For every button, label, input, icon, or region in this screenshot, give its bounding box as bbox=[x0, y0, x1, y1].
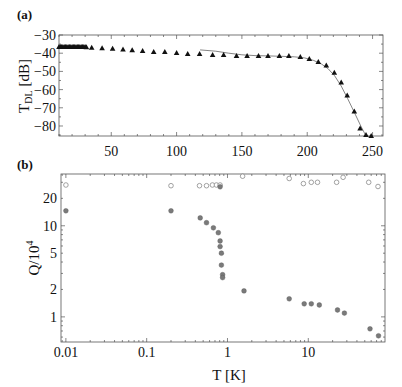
triangle-marker bbox=[110, 46, 116, 51]
fit-line bbox=[200, 50, 366, 136]
triangle-marker bbox=[140, 48, 146, 53]
open-circle-marker bbox=[204, 183, 209, 188]
filled-circle-marker bbox=[309, 301, 314, 306]
y-tick-label: −70 bbox=[34, 101, 56, 116]
triangle-marker bbox=[210, 52, 216, 57]
panel-a-label: (a) bbox=[17, 7, 32, 22]
triangle-marker bbox=[151, 49, 157, 54]
y-tick-label: −50 bbox=[34, 64, 56, 79]
open-circle-marker bbox=[197, 183, 202, 188]
y-tick-label: −60 bbox=[34, 83, 56, 98]
filled-circle-marker bbox=[204, 220, 209, 225]
y-tick-label: 10 bbox=[43, 219, 57, 234]
filled-circle-marker bbox=[169, 208, 174, 213]
triangle-marker bbox=[286, 53, 292, 58]
y-tick-label: 20 bbox=[43, 191, 57, 206]
panel-b-frame bbox=[61, 174, 385, 342]
panel-a-y-axis-label: TDL [dB] bbox=[16, 59, 34, 113]
y-tick-label: 5 bbox=[50, 246, 57, 261]
open-circle-marker bbox=[240, 174, 245, 179]
open-circle-marker bbox=[64, 183, 69, 188]
panel-a-data-points bbox=[56, 44, 374, 138]
x-tick-label: 0.01 bbox=[54, 345, 79, 360]
filled-circle-marker bbox=[218, 244, 223, 249]
filled-circle-marker bbox=[368, 326, 373, 331]
filled-circle-marker bbox=[220, 275, 225, 280]
triangle-marker bbox=[298, 54, 304, 59]
open-circle-marker bbox=[301, 181, 306, 186]
figure: (a) (b) 50100150200250−30−40−50−60−70−80… bbox=[0, 0, 402, 387]
filled-circle-marker bbox=[198, 216, 203, 221]
panel-a-plot: 50100150200250−30−40−50−60−70−80 TDL [dB… bbox=[16, 28, 383, 159]
panel-b-ticks: 0.010.11101251020 bbox=[43, 174, 385, 360]
panel-b-data-points bbox=[64, 174, 381, 338]
triangle-marker bbox=[265, 53, 271, 58]
x-tick-label: 50 bbox=[104, 144, 118, 159]
x-tick-label: 10 bbox=[301, 345, 315, 360]
triangle-marker bbox=[120, 47, 126, 52]
triangle-marker bbox=[99, 45, 105, 50]
filled-circle-marker bbox=[376, 333, 381, 338]
x-tick-label: 200 bbox=[297, 144, 318, 159]
open-circle-marker bbox=[334, 180, 339, 185]
filled-circle-marker bbox=[218, 239, 223, 244]
panel-a-frame bbox=[59, 35, 383, 136]
open-circle-marker bbox=[169, 183, 174, 188]
y-tick-label: −40 bbox=[34, 46, 56, 61]
y-tick-label: −80 bbox=[34, 119, 56, 134]
triangle-marker bbox=[174, 50, 180, 55]
x-tick-label: 250 bbox=[362, 144, 383, 159]
triangle-marker bbox=[197, 51, 203, 56]
triangle-marker bbox=[277, 53, 283, 58]
open-circle-marker bbox=[287, 176, 292, 181]
triangle-marker bbox=[324, 63, 330, 68]
x-tick-label: 0.1 bbox=[138, 345, 156, 360]
triangle-marker bbox=[368, 133, 374, 138]
panel-b-y-axis-label: Q/104 bbox=[24, 241, 42, 276]
open-circle-marker bbox=[366, 180, 371, 185]
filled-circle-marker bbox=[287, 296, 292, 301]
panel-b-label: (b) bbox=[17, 157, 33, 172]
filled-circle-marker bbox=[342, 311, 347, 316]
triangle-marker bbox=[89, 45, 95, 50]
filled-circle-marker bbox=[218, 184, 223, 189]
triangle-marker bbox=[162, 49, 168, 54]
triangle-marker bbox=[185, 51, 191, 56]
filled-circle-marker bbox=[219, 263, 224, 268]
triangle-marker bbox=[129, 47, 135, 52]
x-tick-label: 100 bbox=[166, 144, 187, 159]
triangle-marker bbox=[338, 80, 344, 85]
filled-circle-marker bbox=[64, 208, 69, 213]
filled-circle-marker bbox=[211, 225, 216, 230]
open-circle-marker bbox=[309, 180, 314, 185]
x-tick-label: 1 bbox=[224, 345, 231, 360]
filled-circle-marker bbox=[242, 289, 247, 294]
open-circle-marker bbox=[315, 180, 320, 185]
panel-b-x-axis-label: T [K] bbox=[212, 367, 245, 383]
open-circle-marker bbox=[376, 184, 381, 189]
filled-circle-marker bbox=[216, 230, 221, 235]
x-tick-label: 150 bbox=[231, 144, 252, 159]
open-circle-marker bbox=[341, 175, 346, 180]
filled-circle-marker bbox=[219, 251, 224, 256]
filled-circle-marker bbox=[302, 301, 307, 306]
triangle-marker bbox=[332, 70, 338, 75]
panel-a-fit-curve bbox=[200, 50, 366, 136]
filled-circle-marker bbox=[317, 303, 322, 308]
y-tick-label: 1 bbox=[50, 310, 57, 325]
y-tick-label: 2 bbox=[50, 282, 57, 297]
filled-circle-marker bbox=[335, 308, 340, 313]
y-tick-label: −30 bbox=[34, 28, 56, 43]
panel-b-plot: 0.010.11101251020 Q/104 T [K] bbox=[24, 174, 385, 383]
